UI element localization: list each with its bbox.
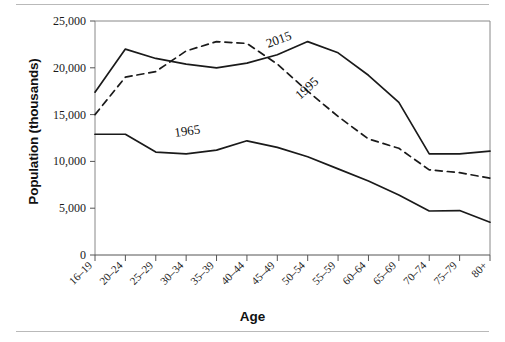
y-tick-label: 10,000 bbox=[53, 154, 86, 168]
x-axis-title: Age bbox=[0, 309, 505, 324]
series-annotation-1965: 1965 bbox=[173, 121, 201, 139]
y-tick-label: 15,000 bbox=[53, 108, 86, 122]
x-axis-ticks: 16–1920–2425–2930–3435–3940–4445–4950–54… bbox=[66, 255, 490, 287]
y-tick-label: 20,000 bbox=[53, 61, 86, 75]
line-chart-plot: 05,00010,00015,00020,00025,000 16–1920–2… bbox=[0, 0, 505, 342]
bottom-divider-rule bbox=[16, 331, 489, 332]
x-tick-label: 80+ bbox=[469, 259, 490, 280]
plot-frame bbox=[95, 21, 490, 255]
x-tick-label: 20–24 bbox=[97, 259, 125, 287]
series-annotation-2015: 2015 bbox=[264, 28, 294, 51]
chart-figure: Population (thousands) Age 05,00010,0001… bbox=[0, 0, 505, 342]
x-tick-label: 60–64 bbox=[340, 259, 368, 287]
top-divider-rule bbox=[16, 4, 489, 5]
x-tick-label: 70–74 bbox=[401, 259, 429, 287]
x-tick-label: 45–49 bbox=[249, 259, 277, 287]
y-axis-ticks: 05,00010,00015,00020,00025,000 bbox=[53, 14, 95, 262]
x-tick-label: 30–34 bbox=[158, 259, 186, 287]
series-line-1995 bbox=[95, 42, 490, 179]
x-tick-label: 55–59 bbox=[310, 259, 338, 287]
y-axis-title: Population (thousands) bbox=[26, 37, 41, 227]
series-line-2015 bbox=[95, 42, 490, 154]
y-tick-label: 5,000 bbox=[59, 201, 86, 215]
x-tick-label: 50–54 bbox=[279, 259, 307, 287]
x-tick-label: 16–19 bbox=[66, 259, 94, 287]
x-tick-label: 75–79 bbox=[431, 259, 459, 287]
x-tick-label: 35–39 bbox=[188, 259, 216, 287]
x-tick-label: 65–69 bbox=[370, 259, 398, 287]
y-tick-label: 25,000 bbox=[53, 14, 86, 28]
series-line-1965 bbox=[95, 134, 490, 222]
x-tick-label: 25–29 bbox=[127, 259, 155, 287]
data-series-group bbox=[95, 42, 490, 223]
x-tick-label: 40–44 bbox=[218, 259, 246, 287]
